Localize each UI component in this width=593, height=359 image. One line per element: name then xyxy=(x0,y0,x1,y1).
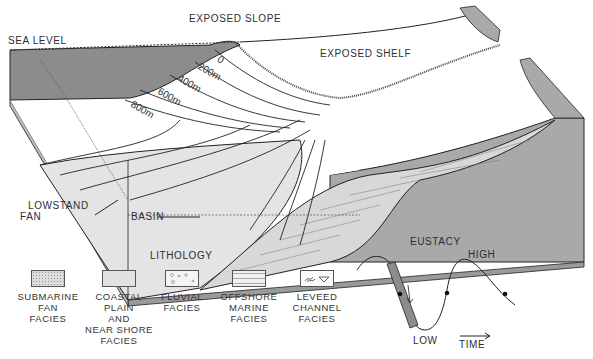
eustacy-high-label: HIGH xyxy=(468,249,495,260)
eustacy-low-label: LOW xyxy=(413,335,438,346)
basin-label: BASIN xyxy=(131,211,164,222)
channel-levee-icon xyxy=(301,271,333,286)
cliff-block-right xyxy=(520,58,584,118)
legend-fluvial: FLUVIAL FACIES xyxy=(152,270,212,313)
lowstand-label-1: LOWSTAND xyxy=(28,200,89,211)
lithology-title: LITHOLOGY xyxy=(150,250,213,261)
sea-level-label: SEA LEVEL xyxy=(8,35,67,46)
coastal-plain-swatch xyxy=(102,270,136,287)
lowstand-band xyxy=(387,262,418,328)
exposed-slope-label: EXPOSED SLOPE xyxy=(189,13,281,24)
cliff-block-top xyxy=(460,6,500,42)
exposed-shelf-label: EXPOSED SHELF xyxy=(320,48,411,59)
eustacy-curve xyxy=(357,256,515,330)
offshore-marine-swatch xyxy=(232,270,266,287)
pebble-icon xyxy=(166,271,198,286)
submarine-fan-swatch xyxy=(31,270,65,287)
eustacy-title: EUSTACY xyxy=(410,236,461,247)
leveed-channel-swatch xyxy=(300,270,334,287)
legend-offshore-marine: OFFSHORE MARINE FACIES xyxy=(215,270,283,324)
lowstand-label-2: FAN xyxy=(20,211,41,222)
legend-leveed-channel: LEVEED CHANNEL FACIES xyxy=(285,270,349,324)
legend-coastal-plain: COASTAL PLAIN AND NEAR SHORE FACIES xyxy=(82,270,156,346)
legend-submarine-fan: SUBMARINE FAN FACIES xyxy=(12,270,84,324)
fluvial-swatch xyxy=(165,270,199,287)
eustacy-time-label: TIME xyxy=(459,339,485,350)
